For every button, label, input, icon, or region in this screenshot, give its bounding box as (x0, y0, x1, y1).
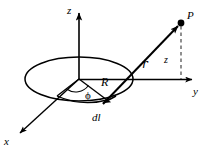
angle-phi-label: ϕ (85, 90, 91, 101)
point-P-label: P (187, 10, 194, 21)
radius-label: R (101, 76, 108, 88)
separation-vector-label: r (142, 58, 148, 70)
point-P-marker (178, 20, 185, 27)
current-loop-diagram: z y x P r z R ϕ dl (0, 0, 209, 152)
phi-reference-line (57, 79, 79, 96)
height-z-label: z (164, 55, 168, 65)
separation-vector-arrow (103, 26, 178, 104)
x-axis-label: x (4, 136, 9, 147)
y-axis-label: y (193, 86, 198, 97)
z-axis-label: z (67, 5, 71, 16)
line-element-label: dl (92, 112, 101, 123)
